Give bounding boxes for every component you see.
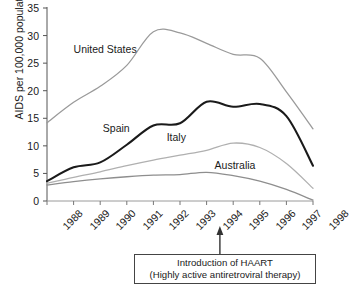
y-tick-label: 0 <box>17 196 39 206</box>
haart-annotation-box: Introduction of HAART (Highly active ant… <box>134 254 316 284</box>
x-tick-label: 1998 <box>326 207 351 232</box>
series-label-united-states: United States <box>74 43 137 55</box>
y-tick-label: 30 <box>17 31 39 41</box>
series-label-spain: Spain <box>103 122 130 134</box>
y-tick-label: 15 <box>17 113 39 123</box>
series-label-italy: Italy <box>167 131 186 143</box>
haart-annotation-line1: Introduction of HAART <box>135 257 315 269</box>
haart-annotation-line2: (Highly active antiretroviral therapy) <box>135 269 315 281</box>
y-tick-label: 35 <box>17 3 39 13</box>
haart-arrow-icon <box>217 226 224 254</box>
y-tick-label: 10 <box>17 141 39 151</box>
series-label-australia: Australia <box>215 159 256 171</box>
y-tick-label: 20 <box>17 86 39 96</box>
series-line-australia <box>47 172 313 200</box>
y-tick-label: 5 <box>17 168 39 178</box>
y-tick-label: 25 <box>17 58 39 68</box>
